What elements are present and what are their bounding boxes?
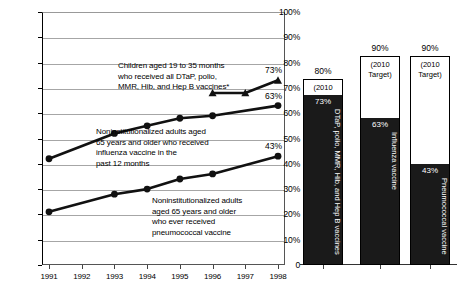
annotation-line: 65 years and older who received [96,138,231,149]
bar-target-percent: 90% [360,44,400,53]
bar-value-fill: 73%DTaP, polio, MMR, Hib, and Hep B vacc… [304,95,342,264]
annotation-line: who received all DTaP, polio, [118,72,238,83]
annotation-line: Noninstitutionalized adults aged [96,127,231,138]
bar-vertical-label: Pneumococcal vaccine [411,178,449,255]
y-axis-tick [38,88,42,89]
y-axis-tick-label: 100% [262,8,300,17]
annotation-line: influenza vaccine in the [96,148,231,159]
bar-value-fill: 63%Influenza vaccine [361,118,399,264]
y-axis-tick [38,12,42,13]
bar-target-caption: (2010Target) [361,57,399,79]
bar-vertical-label: DTaP, polio, MMR, Hib, and Hep B vaccine… [304,109,342,255]
annotation-influenza: Noninstitutionalized adults aged65 years… [96,127,231,169]
bar-target-outline: (2010Target)73%DTaP, polio, MMR, Hib, an… [303,79,343,265]
y-axis-tick [38,164,42,165]
x-axis-tick [114,265,115,269]
y-axis-tick [38,240,42,241]
annotation-line: Children aged 19 to 35 months [118,61,238,72]
bar-target-percent: 90% [410,44,450,53]
bar-target-outline: (2010Target)63%Influenza vaccine [360,56,400,265]
x-axis-tick [49,265,50,269]
annotation-pneumococcal: Noninstitutionalized adultsaged 65 years… [152,196,262,238]
y-axis-tick [38,37,42,38]
y-axis-tick [38,63,42,64]
bar-value-percent: 73% [304,97,342,106]
data-label-dtap: 73% [258,66,282,75]
y-axis-tick [38,214,42,215]
bar-target-caption-line: Target) [411,70,449,80]
bar-target-caption-line: Target) [361,70,399,80]
y-axis-tick [38,189,42,190]
y-axis-tick-label: 60% [262,109,300,118]
bar-value-percent: 63% [361,120,399,129]
y-axis-tick-label: 30% [262,185,300,194]
gridline [43,190,284,191]
bar-target-caption-line: (2010 [361,60,399,70]
y-axis-tick [38,139,42,140]
annotation-line: aged 65 years and older [152,207,262,218]
y-axis-tick-label: 0 [262,261,300,270]
annotation-line: past 12 months [96,159,231,170]
bar-target-outline: (2010Target)43%Pneumococcal vaccine [410,56,450,265]
gridline [43,114,284,115]
data-label-pneumococcal: 43% [258,142,282,151]
bar-baseline-tick [380,265,381,269]
x-axis-tick [245,265,246,269]
bar-vertical-label: Influenza vaccine [361,132,399,190]
y-axis-tick [38,265,42,266]
bar-target-caption-line: (2010 [411,60,449,70]
bar-target-caption: (2010Target) [411,57,449,79]
x-axis-tick [213,265,214,269]
gridline [43,241,284,242]
y-axis-tick-label: 90% [262,33,300,42]
chart-canvas: 010%20%30%40%50%60%70%80%90%100% 1991199… [0,0,457,300]
x-axis-tick [180,265,181,269]
annotation-line: Noninstitutionalized adults [152,196,262,207]
annotation-line: pneumococcal vaccine [152,228,262,239]
y-axis-tick [38,113,42,114]
y-axis-tick-label: 20% [262,210,300,219]
y-axis-tick-label: 10% [262,236,300,245]
annotation-line: who ever received [152,217,262,228]
gridline [43,38,284,39]
bar-baseline-tick [430,265,431,269]
target-bars-panel: 80%(2010Target)73%DTaP, polio, MMR, Hib,… [300,0,457,300]
x-axis-tick [82,265,83,269]
x-axis-tick [278,265,279,269]
line-chart-panel: 010%20%30%40%50%60%70%80%90%100% 1991199… [0,0,300,300]
data-label-influenza: 63% [258,92,282,101]
target-bar-group: 90%(2010Target)43%Pneumococcal vaccine [410,56,450,265]
bar-target-percent: 80% [303,67,343,76]
target-bar-group: 90%(2010Target)63%Influenza vaccine [360,56,400,265]
bar-value-percent: 43% [411,166,449,175]
annotation-dtap: Children aged 19 to 35 monthswho receive… [118,61,238,93]
target-bar-group: 80%(2010Target)73%DTaP, polio, MMR, Hib,… [303,79,343,265]
bar-baseline-tick [323,265,324,269]
annotation-line: MMR, Hib, and Hep B vaccines* [118,82,238,93]
x-axis-tick-label: 1998 [258,273,298,281]
y-axis-tick-label: 40% [262,160,300,169]
bar-target-caption-line: (2010 [304,83,342,93]
x-axis-tick [147,265,148,269]
bar-value-fill: 43%Pneumococcal vaccine [411,164,449,264]
